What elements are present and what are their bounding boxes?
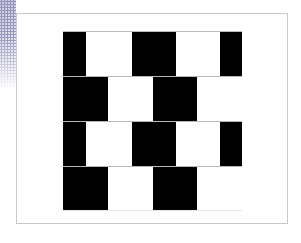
white-tile <box>197 167 242 210</box>
black-tile <box>63 32 86 76</box>
black-tile <box>220 32 242 76</box>
white-tile <box>86 122 132 166</box>
white-tile <box>176 122 220 166</box>
white-tile <box>108 167 153 210</box>
white-tile <box>176 32 220 76</box>
black-tile <box>220 122 242 166</box>
white-tile <box>86 32 132 76</box>
tile-row <box>63 121 242 166</box>
black-tile <box>63 167 108 210</box>
white-tile <box>108 77 153 121</box>
tile-row <box>63 76 242 121</box>
black-tile <box>132 122 176 166</box>
tile-row <box>63 166 242 211</box>
white-tile <box>197 77 242 121</box>
black-tile <box>153 77 197 121</box>
halftone-decoration-overlay <box>0 0 16 90</box>
tile-row <box>63 31 242 76</box>
black-tile <box>63 122 86 166</box>
cafe-wall-grid <box>63 31 242 211</box>
black-tile <box>153 167 197 210</box>
black-tile <box>132 32 176 76</box>
black-tile <box>63 77 108 121</box>
